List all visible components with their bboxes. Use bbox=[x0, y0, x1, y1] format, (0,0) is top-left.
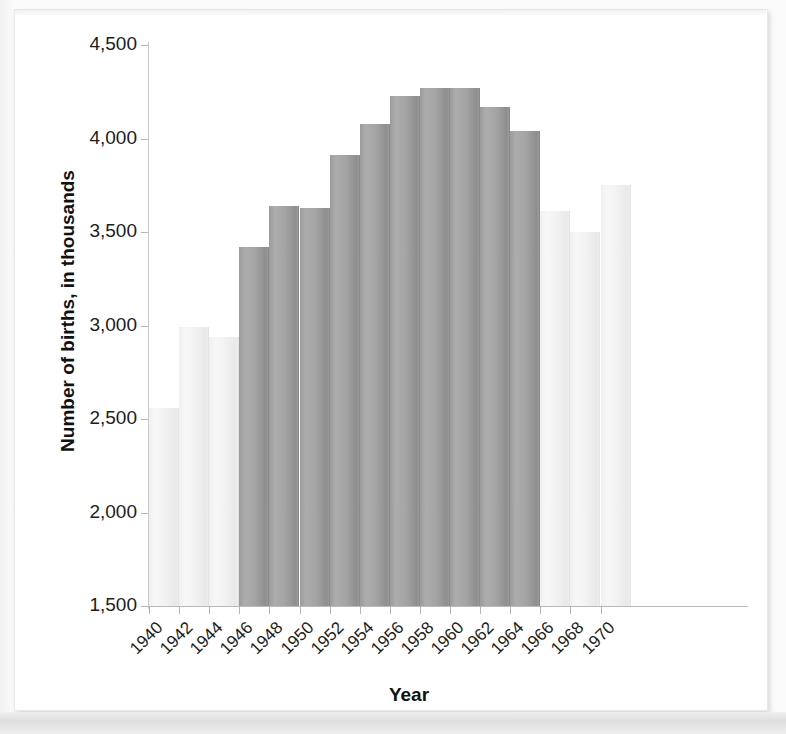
x-axis-tick bbox=[300, 606, 301, 614]
x-axis-tick bbox=[209, 606, 210, 614]
bar-1962 bbox=[480, 107, 510, 606]
x-axis-tick bbox=[450, 606, 451, 614]
x-axis-tick bbox=[480, 606, 481, 614]
bar-1940 bbox=[149, 408, 179, 606]
chart-page: Number of births, in thousands 4,5004,00… bbox=[0, 0, 786, 734]
x-axis-tick bbox=[179, 606, 180, 614]
bar-1964 bbox=[510, 131, 540, 606]
x-axis-tick bbox=[420, 606, 421, 614]
y-axis-tick-label: 1,500 bbox=[67, 594, 137, 616]
x-axis-tick bbox=[540, 606, 541, 614]
bar-1950 bbox=[300, 208, 330, 606]
x-axis-tick bbox=[510, 606, 511, 614]
bar-1954 bbox=[360, 124, 390, 606]
bar-1948 bbox=[269, 206, 299, 606]
bar-1958 bbox=[420, 88, 450, 606]
x-axis-tick bbox=[269, 606, 270, 614]
bar-1960 bbox=[450, 88, 480, 606]
x-axis-tick bbox=[239, 606, 240, 614]
x-axis-tick bbox=[601, 606, 602, 614]
bar-1946 bbox=[239, 247, 269, 606]
plot-area bbox=[149, 45, 631, 606]
x-axis-tick bbox=[360, 606, 361, 614]
bar-1944 bbox=[209, 337, 239, 606]
x-axis-title-container: Year bbox=[0, 684, 786, 706]
y-axis-tick-label: 4,500 bbox=[67, 33, 137, 55]
x-axis-tick bbox=[570, 606, 571, 614]
y-axis-tick-label: 4,000 bbox=[67, 127, 137, 149]
bar-1966 bbox=[540, 211, 570, 606]
x-axis-tick bbox=[330, 606, 331, 614]
x-axis-line bbox=[148, 606, 748, 607]
bar-1942 bbox=[179, 327, 209, 606]
y-axis-tick-labels: 4,5004,0003,5003,0002,5002,0001,500 bbox=[55, 0, 137, 734]
x-axis-tick bbox=[390, 606, 391, 614]
y-axis-tick-label: 3,000 bbox=[67, 314, 137, 336]
bar-1952 bbox=[330, 155, 360, 606]
bar-1968 bbox=[570, 232, 600, 606]
bar-series bbox=[149, 45, 631, 606]
bar-1956 bbox=[390, 96, 420, 607]
x-axis-title: Year bbox=[389, 684, 429, 706]
bar-1970 bbox=[601, 185, 631, 606]
page-edge-shadow-bottom bbox=[0, 712, 786, 734]
x-axis-tick bbox=[149, 606, 150, 614]
y-axis-tick-label: 3,500 bbox=[67, 220, 137, 242]
y-axis-tick-label: 2,000 bbox=[67, 501, 137, 523]
y-axis-tick-label: 2,500 bbox=[67, 407, 137, 429]
